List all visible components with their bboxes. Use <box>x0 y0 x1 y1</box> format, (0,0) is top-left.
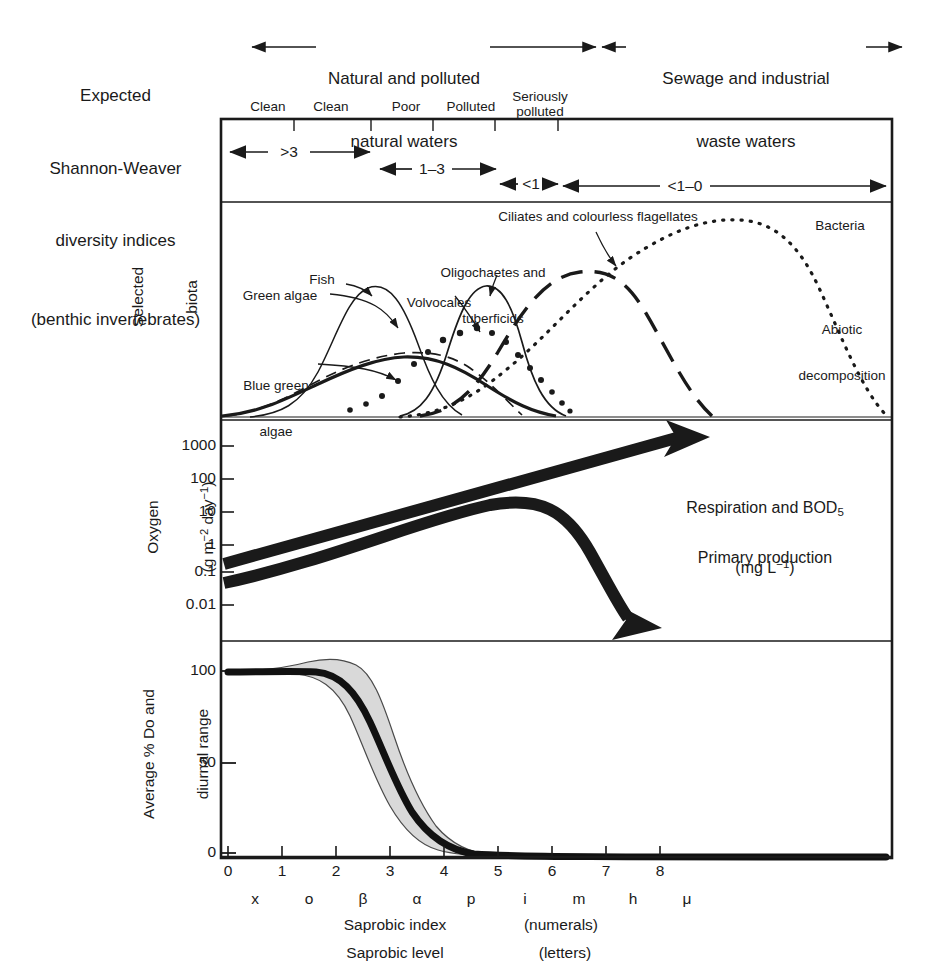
x-tick-num-5: 5 <box>478 862 518 880</box>
biota-label-abiotic-line2: decomposition <box>782 368 902 383</box>
oxygen-tick-1: 1 <box>130 535 216 553</box>
oxygen-tick-0.1: 0.1 <box>130 562 216 580</box>
oxygen-label-respiration: Respiration and BOD5 (mg L−1) <box>650 460 880 616</box>
bod-subscript: 5 <box>837 506 843 518</box>
x-tick-num-0: 0 <box>208 862 248 880</box>
x-tick-letter-p: p <box>451 890 491 908</box>
x-caption-saprobic-index: Saprobic index <box>315 916 475 934</box>
oxygen-tick-100: 100 <box>130 469 216 487</box>
biota-label-blue-green-algae-line1: Blue green <box>234 378 318 393</box>
saprobic-system-figure: Expected Shannon-Weaver diversity indice… <box>0 0 928 974</box>
x-tick-num-1: 1 <box>262 862 302 880</box>
oxygen-tick-1000: 1000 <box>130 436 216 454</box>
biota-label-fish: Fish <box>297 272 347 287</box>
x-tick-letter-o: o <box>289 890 329 908</box>
oxygen-tick-0.01: 0.01 <box>130 595 216 613</box>
x-tick-num-3: 3 <box>370 862 410 880</box>
x-tick-letter-m: m <box>559 890 599 908</box>
biota-axis-label-line2: biota <box>183 227 201 367</box>
biota-axis-label: Selected biota <box>92 227 126 367</box>
x-caption-letters: (letters) <box>500 944 630 962</box>
biota-axis-label-line1: Selected <box>129 227 147 367</box>
x-tick-letter-x: x <box>235 890 275 908</box>
biota-label-oligochaetes-line2: tuberficids <box>425 311 561 326</box>
percent-tick-100: 100 <box>150 661 216 679</box>
diversity-range-0: >3 <box>265 143 313 161</box>
biota-label-oligochaetes: Oligochaetes and tuberficids <box>425 235 561 356</box>
percent-tick-0: 0 <box>150 843 216 861</box>
diversity-range-2: <1 <box>514 175 548 193</box>
percent-tick-50: 50 <box>150 753 216 771</box>
oxygen-label-respiration-line1: Respiration and BOD5 <box>650 498 880 520</box>
x-caption-saprobic-level: Saprobic level <box>315 944 475 962</box>
biota-label-blue-green-algae-line2: algae <box>234 424 318 439</box>
x-caption-numerals: (numerals) <box>496 916 626 934</box>
biota-label-abiotic-line1: Abiotic <box>782 322 902 337</box>
x-tick-letter-mu: μ <box>667 890 707 908</box>
x-tick-letter-h: h <box>613 890 653 908</box>
biota-label-bacteria: Bacteria <box>802 218 878 233</box>
x-tick-num-8: 8 <box>640 862 680 880</box>
x-tick-num-6: 6 <box>532 862 572 880</box>
x-tick-num-7: 7 <box>586 862 626 880</box>
x-tick-letter-i: i <box>505 890 545 908</box>
oxygen-label-primary-production: Primary production <box>650 548 880 567</box>
biota-label-green-algae: Green algae <box>232 288 328 303</box>
biota-label-ciliates: Ciliates and colourless flagellates <box>473 209 723 224</box>
biota-label-oligochaetes-line1: Oligochaetes and <box>425 265 561 280</box>
biota-label-blue-green-algae: Blue green algae <box>234 348 318 469</box>
x-tick-letter-beta: β <box>343 890 383 908</box>
percent-axis-label: Average % Do and diurnal range <box>103 644 145 864</box>
diversity-range-1: 1–3 <box>408 160 456 178</box>
diversity-range-3: <1–0 <box>655 177 715 195</box>
oxygen-tick-10: 10 <box>130 502 216 520</box>
x-tick-letter-alpha: α <box>397 890 437 908</box>
x-tick-num-2: 2 <box>316 862 356 880</box>
biota-label-abiotic-decomposition: Abiotic decomposition <box>782 292 902 413</box>
x-tick-num-4: 4 <box>424 862 464 880</box>
